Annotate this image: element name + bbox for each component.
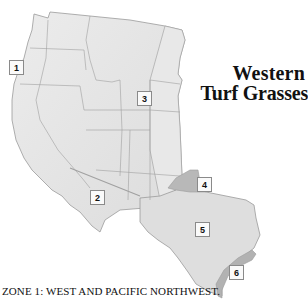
map-title: Western Turf Grasses [172,63,308,103]
zone-1-label: 1 [14,63,19,73]
zone-2-label: 2 [95,193,100,203]
zone-caption: ZONE 1: WEST AND PACIFIC NORTHWEST. [2,285,220,297]
zone-1-marker[interactable]: 1 [9,60,24,75]
zone-5-marker[interactable]: 5 [195,222,210,237]
zone-3-marker[interactable]: 3 [137,91,152,106]
zone-4-label: 4 [202,180,207,190]
zone-3-label: 3 [142,94,147,104]
western-us-map [0,0,308,301]
title-line-1: Western [172,63,308,83]
zone-6-marker[interactable]: 6 [229,265,244,280]
zone-6-label: 6 [234,268,239,278]
zone-5-label: 5 [200,225,205,235]
title-line-2: Turf Grasses [172,83,308,103]
zone-4-marker[interactable]: 4 [197,177,212,192]
zone-2-marker[interactable]: 2 [90,190,105,205]
